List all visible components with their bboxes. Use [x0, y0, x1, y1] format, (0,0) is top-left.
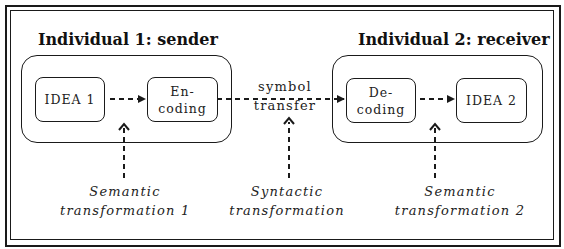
arrows-layer [0, 0, 564, 249]
